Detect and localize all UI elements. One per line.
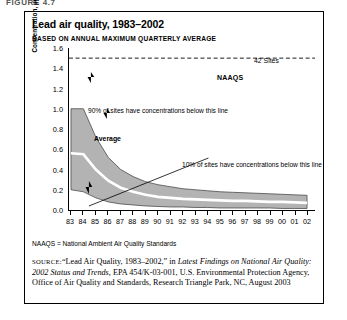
x-axis-tick-mark	[107, 211, 108, 215]
x-axis-tick-mark	[132, 211, 133, 215]
label-average: Average	[94, 135, 121, 142]
x-axis-tick-labels: 8384858687888990919293949596979899000102	[68, 211, 315, 237]
x-axis-tick-mark	[95, 211, 96, 215]
y-axis-tick-labels: 0.00.20.40.60.81.01.21.41.6	[41, 48, 63, 210]
x-axis-tick-mark	[220, 211, 221, 215]
source-italic-1: Latest Findings on National	[178, 257, 270, 266]
x-axis-tick-mark	[282, 211, 283, 215]
leader-arrow-upper	[88, 72, 95, 83]
x-axis-tick-mark	[207, 211, 208, 215]
x-axis-tick-mark	[245, 211, 246, 215]
x-axis-tick-mark	[307, 211, 308, 215]
y-axis-tick: 1.4	[41, 64, 63, 73]
x-axis-tick-mark	[157, 211, 158, 215]
figure-box: Lead air quality, 1983–2002 BASED ON ANN…	[24, 11, 324, 304]
percentile-band	[71, 109, 307, 209]
y-axis-tick: 0.0	[41, 206, 63, 215]
x-axis-tick-mark	[70, 211, 71, 215]
label-site-count: 42 Sites	[254, 57, 279, 64]
plot-canvas	[68, 48, 315, 210]
y-axis-tick: 0.8	[41, 125, 63, 134]
annotation-90th-percentile: 90% of sites have concentrations below t…	[88, 107, 228, 114]
y-axis-title: Concentration, µg/m³	[31, 0, 38, 66]
chart-svg	[69, 48, 315, 210]
x-axis-tick: 02	[299, 217, 315, 226]
source-text-1: “Lead Air Quality, 1983–2002,” in	[62, 257, 178, 266]
source-citation: SOURCE:“Lead Air Quality, 1983–2002,” in…	[32, 257, 320, 289]
y-axis-tick: 0.6	[41, 145, 63, 154]
source-text-2: EPA 454/K-03-001, U.S.	[111, 268, 194, 277]
y-axis-tick: 0.2	[41, 185, 63, 194]
x-axis-tick-mark	[195, 211, 196, 215]
x-axis-tick-mark	[82, 211, 83, 215]
y-axis-tick: 0.4	[41, 165, 63, 174]
chart-subtitle: BASED ON ANNUAL MAXIMUM QUARTERLY AVERAG…	[32, 35, 216, 42]
x-axis-tick-mark	[182, 211, 183, 215]
x-axis-tick-mark	[270, 211, 271, 215]
x-axis-tick-mark	[232, 211, 233, 215]
source-prefix: SOURCE:	[32, 258, 62, 265]
x-axis-tick-mark	[295, 211, 296, 215]
chart-title: Lead air quality, 1983–2002	[32, 18, 164, 30]
source-text-4: Research Triangle Park, NC, August 2003	[153, 278, 291, 287]
annotation-10th-percentile: 10% of sites have concentrations below t…	[182, 161, 322, 168]
x-axis-tick-mark	[120, 211, 121, 215]
y-axis-tick: 1.0	[41, 104, 63, 113]
x-axis-tick-mark	[145, 211, 146, 215]
y-axis-tick: 1.2	[41, 84, 63, 93]
label-naaqs: NAAQS	[217, 74, 243, 81]
naaqs-footnote: NAAQS = National Ambient Air Quality Sta…	[32, 240, 176, 247]
y-axis-tick: 1.6	[41, 44, 63, 53]
x-axis-tick-mark	[170, 211, 171, 215]
chart-plot-area: Concentration, µg/m³ 0.00.20.40.60.81.01…	[32, 48, 318, 238]
x-axis-tick-mark	[257, 211, 258, 215]
